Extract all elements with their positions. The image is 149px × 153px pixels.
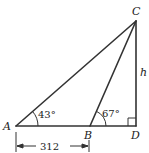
point-label-B: B <box>83 129 92 142</box>
angle-label-B: 67° <box>102 108 120 119</box>
arrowhead-left <box>17 144 23 148</box>
arrowhead-right <box>82 144 88 148</box>
height-label-h: h <box>140 66 147 79</box>
dimension-label-AB: 312 <box>40 141 59 152</box>
point-label-C: C <box>132 5 141 18</box>
point-label-A: A <box>2 120 11 133</box>
angle-label-A: 43° <box>38 109 56 120</box>
point-label-D: D <box>130 129 140 142</box>
right-angle-marker-D <box>128 118 136 126</box>
triangle-diagram: A B C D h 43° 67° 312 <box>0 0 149 153</box>
